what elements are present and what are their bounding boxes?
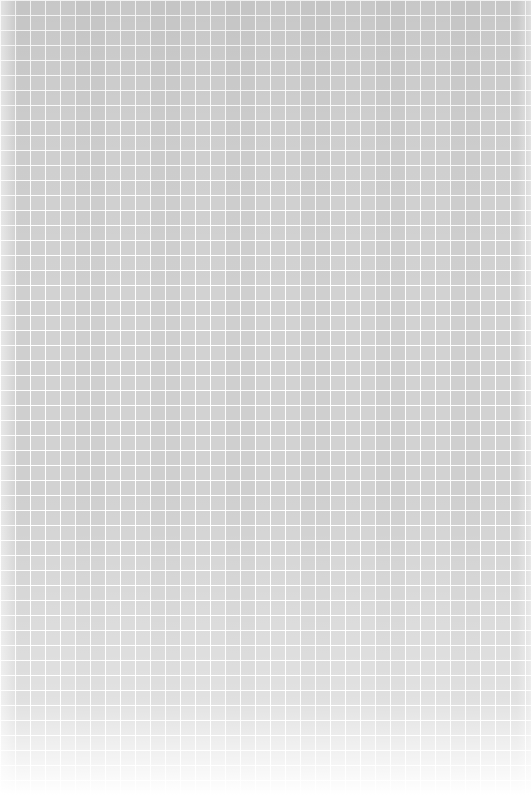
pattern-image: A seamless light gray decorative pattern… [0,0,531,795]
ornamental-tile-pattern [0,0,531,795]
